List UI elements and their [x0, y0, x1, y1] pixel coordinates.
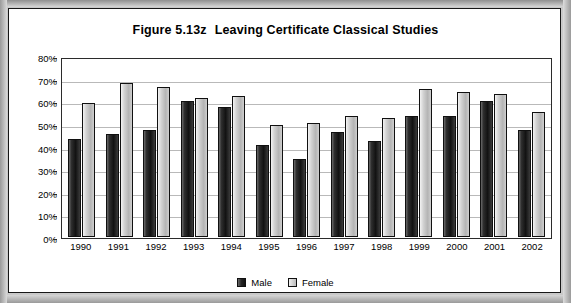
- bar-female-2000: [457, 92, 470, 237]
- bar-female-1993: [195, 98, 208, 237]
- bar-female-2002: [532, 112, 545, 237]
- bar-group: [400, 60, 437, 237]
- bar-female-1998: [382, 118, 395, 237]
- chart-title-prefix: Figure 5.13z: [133, 23, 207, 37]
- bar-male-2001: [480, 101, 493, 237]
- bars-layer: [63, 60, 550, 237]
- x-axis-tick-label: 1996: [288, 241, 326, 252]
- bar-male-1991: [106, 134, 119, 237]
- bar-group: [250, 60, 287, 237]
- page-edge-left: [0, 0, 7, 303]
- y-axis-tick-label: 60%: [13, 98, 57, 109]
- bar-group: [63, 60, 100, 237]
- x-axis-tick-label: 2000: [438, 241, 476, 252]
- chart-title-text: Leaving Certificate Classical Studies: [215, 23, 439, 37]
- chart-panel: Figure 5.13zLeaving Certificate Classica…: [8, 8, 561, 293]
- bar-male-1998: [368, 141, 381, 237]
- y-axis-tick-label: 70%: [13, 76, 57, 87]
- bar-female-2001: [494, 94, 507, 237]
- y-axis-tick-label: 30%: [13, 166, 57, 177]
- legend-swatch-female-icon: [288, 278, 297, 287]
- y-axis-tick-mark: [53, 81, 57, 82]
- bar-female-1996: [307, 123, 320, 237]
- plot-area: [61, 58, 552, 247]
- bar-male-2000: [443, 116, 456, 237]
- x-axis-tick-label: 1997: [325, 241, 363, 252]
- x-axis-tick-label: 1992: [137, 241, 175, 252]
- y-axis-tick-label: 20%: [13, 189, 57, 200]
- x-axis-tick-label: 2002: [513, 241, 551, 252]
- x-axis-tick-label: 1991: [100, 241, 138, 252]
- legend-swatch-male-icon: [237, 278, 246, 287]
- y-axis-tick-mark: [53, 216, 57, 217]
- legend-item-male: Male: [237, 277, 272, 288]
- bar-female-1992: [157, 87, 170, 237]
- bar-group: [438, 60, 475, 237]
- bar-group: [363, 60, 400, 237]
- y-axis-tick-label: 0%: [13, 234, 57, 245]
- legend-label-female: Female: [302, 277, 334, 288]
- y-axis-tick-mark: [53, 239, 57, 240]
- bar-male-1994: [218, 107, 231, 237]
- plot-frame: [61, 58, 552, 239]
- figure-container: Figure 5.13zLeaving Certificate Classica…: [0, 0, 571, 303]
- bar-female-1995: [270, 125, 283, 237]
- bar-male-1993: [181, 101, 194, 237]
- bar-male-1992: [143, 130, 156, 237]
- bar-group: [175, 60, 212, 237]
- x-axis-tick-label: 1994: [212, 241, 250, 252]
- chart-title: Figure 5.13zLeaving Certificate Classica…: [9, 23, 562, 37]
- bar-group: [213, 60, 250, 237]
- x-axis-tick-label: 2001: [476, 241, 514, 252]
- bar-male-1995: [256, 145, 269, 237]
- bar-male-1999: [405, 116, 418, 237]
- bar-female-1997: [345, 116, 358, 237]
- bar-group: [325, 60, 362, 237]
- bar-group: [100, 60, 137, 237]
- y-axis-tick-label: 50%: [13, 121, 57, 132]
- page-edge-right: [563, 0, 571, 303]
- bar-male-1997: [331, 132, 344, 237]
- x-axis-tick-label: 1995: [250, 241, 288, 252]
- y-axis-tick-label: 80%: [13, 53, 57, 64]
- x-axis-tick-label: 1990: [62, 241, 100, 252]
- chart-legend: Male Female: [9, 277, 562, 288]
- bar-female-1999: [419, 89, 432, 237]
- x-axis-tick-label: 1998: [363, 241, 401, 252]
- bar-female-1990: [82, 103, 95, 237]
- bar-male-1990: [68, 139, 81, 237]
- bar-male-2002: [518, 130, 531, 237]
- y-axis-tick-mark: [53, 58, 57, 59]
- bar-female-1994: [232, 96, 245, 237]
- x-axis-tick-label: 1999: [400, 241, 438, 252]
- y-axis-tick-label: 10%: [13, 211, 57, 222]
- x-axis: 1990199119921993199419951996199719981999…: [62, 241, 551, 252]
- bar-group: [475, 60, 512, 237]
- bar-group: [513, 60, 550, 237]
- bar-group: [138, 60, 175, 237]
- legend-item-female: Female: [288, 277, 334, 288]
- y-axis-tick-mark: [53, 149, 57, 150]
- bar-female-1991: [120, 83, 133, 237]
- y-axis-tick-mark: [53, 171, 57, 172]
- bar-male-1996: [293, 159, 306, 237]
- x-axis-tick-label: 1993: [175, 241, 213, 252]
- y-axis-tick-mark: [53, 194, 57, 195]
- bar-group: [288, 60, 325, 237]
- page-edge-top: [0, 0, 571, 7]
- page-edge-bottom: [0, 295, 571, 303]
- y-axis-tick-mark: [53, 103, 57, 104]
- legend-label-male: Male: [251, 277, 272, 288]
- y-axis-tick-mark: [53, 126, 57, 127]
- y-axis: 0%10%20%30%40%50%60%70%80%: [9, 58, 57, 240]
- y-axis-tick-label: 40%: [13, 144, 57, 155]
